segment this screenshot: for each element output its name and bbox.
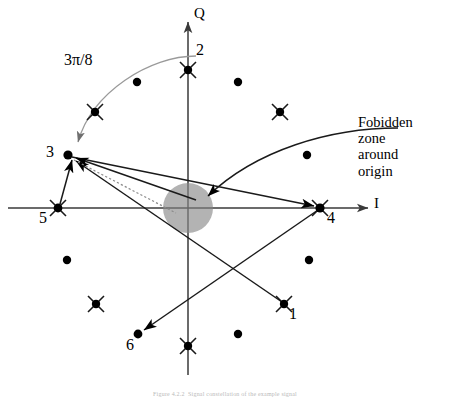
forbidden-zone-note: Fobidden zone around origin bbox=[358, 114, 413, 179]
angle-label: 3π/8 bbox=[64, 52, 93, 69]
point-marker bbox=[133, 78, 141, 86]
q-axis-label: Q bbox=[194, 6, 205, 22]
point-marker bbox=[303, 151, 311, 159]
point-marker bbox=[134, 330, 143, 339]
point-label-4: 4 bbox=[327, 210, 335, 227]
constellation-figure: Q I 3π/8 Fobidden zone around origin 1 2… bbox=[0, 0, 450, 401]
i-axis-label: I bbox=[374, 196, 379, 212]
point-marker bbox=[305, 256, 313, 264]
point-label-3: 3 bbox=[46, 144, 54, 161]
point-label-2: 2 bbox=[196, 42, 204, 59]
point-marker bbox=[272, 104, 288, 120]
ray-5-to-3 bbox=[60, 160, 72, 204]
point-marker bbox=[234, 330, 242, 338]
point-marker bbox=[63, 150, 72, 159]
figure-caption: Figure 4.2.2 Signal constellation of the… bbox=[0, 391, 450, 397]
point-label-5: 5 bbox=[39, 210, 47, 227]
point-marker bbox=[63, 256, 71, 264]
angle-arc-arrow bbox=[78, 56, 196, 142]
point-marker bbox=[234, 78, 242, 86]
point-label-6: 6 bbox=[126, 337, 134, 354]
point-marker bbox=[87, 104, 103, 120]
point-label-1: 1 bbox=[289, 306, 297, 323]
ray-1-to-3 bbox=[76, 161, 282, 302]
point-marker bbox=[88, 296, 104, 312]
